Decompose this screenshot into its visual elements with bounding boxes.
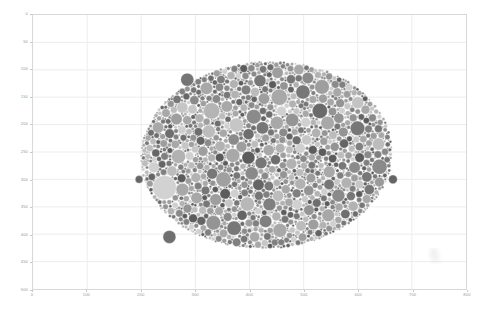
bubble-point — [251, 210, 252, 211]
x-tick-label: 500 — [300, 293, 307, 297]
bubble-point — [197, 85, 201, 88]
bubble-point — [372, 154, 373, 155]
bubble-point — [355, 153, 365, 163]
bubble-point — [340, 95, 344, 99]
bubble-point — [243, 152, 245, 154]
bubble-point — [182, 225, 185, 228]
bubble-point — [213, 144, 215, 146]
bubble-point — [168, 139, 172, 143]
bubble-point — [265, 246, 268, 249]
bubble-point — [275, 111, 276, 112]
bubble-point — [182, 141, 183, 142]
bubble-point — [327, 178, 328, 179]
bubble-point — [363, 143, 365, 145]
bubble-point — [156, 112, 158, 114]
bubble-point — [195, 162, 198, 165]
bubble-point — [370, 158, 375, 163]
bubble-point — [334, 185, 338, 189]
bubble-point — [219, 188, 222, 191]
bubble-point — [220, 161, 222, 163]
bubble-point — [372, 138, 384, 150]
bubble-point — [383, 138, 385, 140]
bubble-point — [350, 107, 355, 112]
bubble-point — [344, 99, 348, 103]
bubble-point — [337, 142, 339, 144]
bubble-point — [142, 156, 146, 160]
bubble-point — [152, 149, 160, 157]
bubble-point — [341, 220, 346, 225]
bubble-point — [314, 140, 317, 143]
bubble-point — [298, 99, 299, 100]
bubble-point — [332, 139, 335, 142]
bubble-point — [203, 75, 204, 76]
bubble-point — [237, 210, 239, 212]
bubble-point — [165, 129, 175, 139]
bubble-point — [184, 100, 186, 102]
bubble-point — [274, 149, 275, 150]
bubble-point — [362, 211, 365, 214]
bubble-point — [223, 169, 226, 172]
bubble-point — [334, 162, 339, 167]
bubble-point — [192, 168, 197, 173]
bubble-point — [297, 123, 301, 127]
bubble-point — [150, 157, 152, 159]
bubble-point — [318, 101, 320, 103]
bubble-point — [272, 245, 274, 247]
bubble-point — [251, 86, 253, 88]
bubble-point — [289, 227, 295, 233]
bubble-point — [367, 183, 369, 185]
bubble-point — [227, 78, 229, 80]
bubble-point — [203, 145, 205, 147]
bubble-point — [229, 130, 233, 134]
bubble-point — [168, 155, 171, 158]
y-tick-label: 50 — [8, 39, 28, 43]
bubble-point — [242, 102, 244, 104]
bubble-point — [191, 192, 193, 194]
bubble-point — [336, 228, 338, 230]
bubble-point — [333, 219, 335, 221]
bubble-point — [277, 239, 279, 241]
bubble-point — [221, 242, 222, 243]
bubble-point — [313, 239, 315, 241]
bubble-point — [259, 103, 262, 106]
bubble-point — [343, 88, 346, 91]
bubble-point — [203, 136, 205, 138]
bubble-point — [166, 173, 168, 175]
bubble-point — [371, 171, 374, 174]
bubble-point — [284, 198, 286, 200]
bubble-point — [207, 146, 209, 148]
bubble-point — [232, 171, 234, 173]
bubble-point — [303, 172, 307, 176]
bubble-point — [302, 196, 309, 203]
bubble-point — [224, 154, 226, 156]
bubble-point — [221, 101, 232, 112]
bubble-point — [189, 195, 191, 197]
bubble-point — [176, 181, 179, 184]
bubble-point — [358, 176, 359, 177]
bubble-point — [197, 155, 199, 157]
bubble-point — [362, 166, 367, 171]
bubble-point — [185, 86, 190, 91]
bubble-point — [226, 98, 228, 100]
bubble-point — [211, 100, 213, 102]
bubble-point — [348, 97, 352, 101]
bubble-point — [166, 161, 172, 167]
bubble-point — [236, 197, 238, 199]
bubble-point — [301, 176, 303, 178]
bubble-point — [341, 88, 343, 90]
bubble-point — [327, 99, 334, 106]
bubble-point — [389, 175, 398, 184]
bubble-point — [285, 90, 287, 92]
bubble-point — [320, 236, 322, 238]
bubble-point — [341, 92, 343, 94]
bubble-point — [353, 145, 355, 147]
bubble-point — [228, 128, 230, 130]
bubble-point — [264, 142, 267, 145]
bubble-point — [158, 198, 160, 200]
bubble-point — [357, 151, 359, 153]
bubble-point — [191, 211, 193, 213]
bubble-point — [252, 197, 255, 200]
bubble-point — [363, 182, 367, 186]
bubble-point — [170, 106, 177, 113]
bubble-point — [368, 122, 371, 125]
